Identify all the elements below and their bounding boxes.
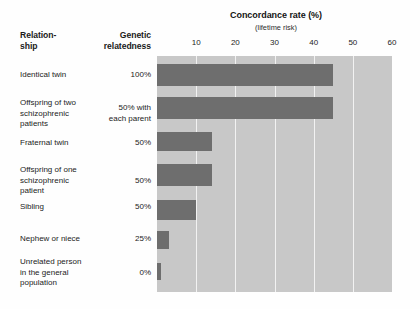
- column-header-genetic-relatedness: Geneticrelatedness: [95, 30, 151, 51]
- gridline-50: [353, 56, 354, 292]
- x-tick-label-20: 20: [222, 38, 248, 47]
- bar-2: [157, 132, 212, 151]
- gridline-20: [235, 56, 236, 292]
- row-label-4: Sibling: [20, 202, 100, 213]
- row-label-5: Nephew or niece: [20, 234, 100, 245]
- bar-4: [157, 200, 196, 220]
- column-header-relationship: Relation-ship: [20, 30, 98, 51]
- x-tick-label-10: 10: [183, 38, 209, 47]
- x-tick-label-60: 60: [379, 38, 405, 47]
- row-label-3: Offspring of oneschizophrenicpatient: [20, 165, 100, 197]
- x-tick-label-30: 30: [262, 38, 288, 47]
- chart-title: Concordance rate (%): [152, 10, 400, 20]
- row-label-2: Fraternal twin: [20, 138, 100, 149]
- plot-area: [157, 56, 392, 292]
- row-relatedness-1: 50% witheach parent: [95, 103, 151, 124]
- row-relatedness-4: 50%: [95, 202, 151, 213]
- gridline-30: [275, 56, 276, 292]
- schizophrenia-concordance-figure: Relation-ship Geneticrelatedness Concord…: [0, 0, 420, 309]
- row-relatedness-3: 50%: [95, 176, 151, 187]
- bar-5: [157, 231, 169, 249]
- row-relatedness-0: 100%: [95, 70, 151, 81]
- row-relatedness-5: 25%: [95, 234, 151, 245]
- bar-6: [157, 263, 161, 280]
- bar-0: [157, 64, 333, 86]
- bar-1: [157, 97, 333, 119]
- row-label-0: Identical twin: [20, 70, 100, 81]
- row-relatedness-2: 50%: [95, 138, 151, 149]
- row-label-1: Offspring of twoschizophrenicpatients: [20, 98, 100, 130]
- x-tick-label-50: 50: [340, 38, 366, 47]
- bar-3: [157, 164, 212, 186]
- chart-subtitle: (lifetime risk): [152, 23, 400, 32]
- x-tick-label-40: 40: [301, 38, 327, 47]
- row-label-6: Unrelated personin the generalpopulation: [20, 257, 100, 289]
- row-relatedness-6: 0%: [95, 268, 151, 279]
- gridline-40: [314, 56, 315, 292]
